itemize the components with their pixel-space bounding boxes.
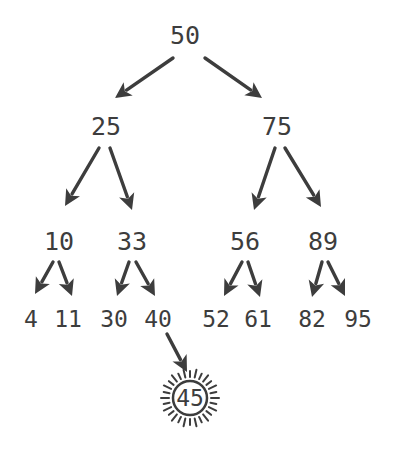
node-40-label: 40 xyxy=(144,306,172,332)
sunburst-ray xyxy=(164,407,171,410)
node-45-label: 45 xyxy=(176,385,204,411)
sunburst-ray xyxy=(206,411,211,415)
node-95-label: 95 xyxy=(344,306,372,332)
node-4-label: 4 xyxy=(24,306,38,332)
node-10-label: 10 xyxy=(44,227,74,256)
edge-arrow-33-to-30 xyxy=(115,262,130,296)
sunburst-ray xyxy=(199,417,202,422)
sunburst-ray xyxy=(184,370,186,378)
sunburst-ray xyxy=(164,403,170,404)
sunburst-ray xyxy=(199,374,202,379)
node-52-label: 52 xyxy=(202,306,230,332)
sunburst-ray xyxy=(203,375,208,381)
node-11-label: 11 xyxy=(54,306,82,332)
edge-arrow-56-to-61 xyxy=(247,262,262,297)
node-25-label: 25 xyxy=(91,112,121,141)
edge-arrow-10-to-11 xyxy=(59,262,74,296)
node-30-label: 30 xyxy=(100,306,128,332)
sunburst-ray xyxy=(209,385,216,388)
edge-arrow-56-to-52 xyxy=(224,262,242,296)
sunburst-ray xyxy=(169,411,174,415)
sunburst-ray xyxy=(184,418,186,426)
edge-arrow-40-to-45 xyxy=(167,334,187,372)
edge-arrow-33-to-40 xyxy=(136,262,155,296)
node-75-label: 75 xyxy=(262,112,292,141)
sunburst-ray xyxy=(178,374,181,379)
bst-diagram: 45 50257510335689411304052618295 xyxy=(0,0,394,456)
edge-arrow-50-to-25 xyxy=(115,58,173,98)
node-82-label: 82 xyxy=(298,306,326,332)
edge-arrow-25-to-10 xyxy=(65,148,99,206)
node-61-label: 61 xyxy=(244,306,272,332)
node-89-label: 89 xyxy=(308,227,338,256)
sunburst-ray xyxy=(164,385,171,388)
edge-arrow-75-to-89 xyxy=(285,148,321,207)
sunburst-ray xyxy=(172,414,177,420)
sunburst-ray xyxy=(169,381,174,385)
sunburst-ray xyxy=(206,381,211,385)
sunburst-ray xyxy=(195,418,197,426)
sunburst-ray xyxy=(178,417,181,422)
sunburst-ray xyxy=(209,407,216,410)
node-56-label: 56 xyxy=(230,227,260,256)
sunburst-ray xyxy=(203,414,208,420)
edge-arrow-10-to-4 xyxy=(35,262,53,294)
highlight-node-45: 45 xyxy=(161,370,219,427)
sunburst-ray xyxy=(210,392,216,393)
edge-arrow-89-to-95 xyxy=(328,262,345,296)
node-50-label: 50 xyxy=(170,21,200,50)
sunburst-ray xyxy=(164,392,170,393)
edge-arrow-25-to-33 xyxy=(110,148,134,210)
edge-arrow-50-to-75 xyxy=(205,58,262,98)
arrowhead-icon xyxy=(115,82,133,98)
sunburst-ray xyxy=(172,375,177,381)
edge-arrow-89-to-82 xyxy=(309,262,324,297)
sunburst-ray xyxy=(210,403,216,404)
node-33-label: 33 xyxy=(117,227,147,256)
arrowhead-icon xyxy=(244,82,262,98)
edge-arrow-75-to-56 xyxy=(252,148,275,210)
sunburst-ray xyxy=(195,370,197,378)
